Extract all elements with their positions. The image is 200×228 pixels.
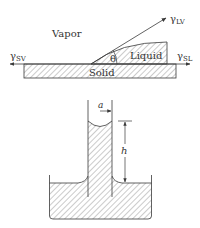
contact-angle-diagram: Vapor Liquid Solid θ γLV γSV γSL: [10, 13, 193, 78]
beaker-surface-right: [112, 176, 152, 183]
solid-label: Solid: [89, 67, 115, 78]
height-label: h: [121, 145, 127, 156]
liquid-label: Liquid: [130, 50, 163, 61]
gamma-sv-label: γSV: [10, 50, 27, 63]
diagram-canvas: Vapor Liquid Solid θ γLV γSV γSL a: [0, 0, 200, 228]
tube-liquid-column: [88, 121, 112, 197]
capillary-rise-diagram: a h: [50, 100, 152, 219]
radius-label: a: [98, 100, 103, 110]
gamma-lv-label: γLV: [170, 13, 186, 26]
gamma-sl-label: γSL: [177, 50, 193, 63]
vapor-label: Vapor: [51, 28, 82, 39]
theta-label: θ: [110, 53, 116, 64]
beaker-surface-left: [50, 176, 89, 183]
